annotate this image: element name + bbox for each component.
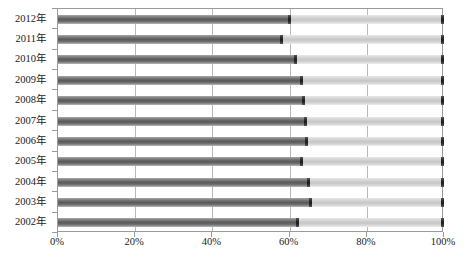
table-row [58,35,442,44]
bar-boundary-marker [288,15,291,24]
stacked-bar [58,76,442,85]
bar-segment-series-2 [311,198,444,207]
bar-segment-series-2 [303,96,444,105]
y-axis-tick-label: 2003年 [15,196,46,207]
y-axis-tick [52,232,57,233]
bar-segment-series-1 [58,15,290,24]
bar-boundary-marker [305,137,308,146]
y-axis-tick-label: 2012年 [15,13,46,24]
bar-segment-series-1 [58,55,295,64]
y-axis-tick [52,171,57,172]
y-axis-tick [52,28,57,29]
table-row [58,15,442,24]
bar-boundary-marker [307,178,310,187]
y-axis-tick-label: 2011年 [15,33,46,44]
y-axis-label-group: 2012年2011年2010年2009年2008年2007年2006年2005年… [0,8,52,232]
bar-segment-series-1 [58,218,297,227]
bar-end-marker [441,35,444,44]
bar-end-marker [441,157,444,166]
y-axis-tick-label: 2004年 [15,176,46,187]
y-axis-tick-label: 2008年 [15,94,46,105]
bar-end-marker [441,218,444,227]
y-axis-tick [52,151,57,152]
bar-boundary-marker [304,117,307,126]
stacked-bar [58,117,442,126]
bar-segment-series-1 [58,157,301,166]
y-axis-tick-label: 2002年 [15,216,46,227]
table-row [58,76,442,85]
y-axis-tick-label: 2005年 [15,155,46,166]
table-row [58,96,442,105]
stacked-bar [58,137,442,146]
stacked-bar [58,157,442,166]
bar-segment-series-1 [58,117,305,126]
stacked-bar [58,55,442,64]
stacked-bar-chart: 2012年2011年2010年2009年2008年2007年2006年2005年… [0,0,474,267]
table-row [58,157,442,166]
table-row [58,117,442,126]
bar-boundary-marker [309,198,312,207]
bar-end-marker [441,15,444,24]
bar-segment-series-2 [301,157,444,166]
stacked-bar [58,35,442,44]
bar-end-marker [441,137,444,146]
x-axis-tick-label: 60% [279,236,298,247]
bar-segment-series-1 [58,35,282,44]
bar-segment-series-1 [58,178,309,187]
table-row [58,198,442,207]
y-axis-tick-label: 2010年 [15,53,46,64]
y-axis-tick [52,191,57,192]
stacked-bar [58,218,442,227]
y-axis-tick [52,8,57,9]
x-axis-tick-label: 0% [50,236,64,247]
bar-boundary-marker [300,157,303,166]
bar-end-marker [441,117,444,126]
y-axis-tick [52,49,57,50]
table-row [58,137,442,146]
bar-segment-series-2 [290,15,444,24]
bar-segment-series-2 [295,55,444,64]
stacked-bar [58,96,442,105]
bar-segment-series-2 [305,117,444,126]
bar-boundary-marker [296,218,299,227]
y-axis-tick-label: 2006年 [15,135,46,146]
stacked-bar [58,178,442,187]
bar-segment-series-2 [282,35,444,44]
bar-segment-series-1 [58,137,307,146]
bar-boundary-marker [300,76,303,85]
bar-boundary-marker [302,96,305,105]
x-axis-label-group: 0%20%40%60%80%100% [0,236,474,252]
bar-end-marker [441,76,444,85]
y-axis-tick [52,89,57,90]
bar-boundary-marker [294,55,297,64]
x-axis-tick-label: 80% [356,236,375,247]
x-axis-tick-label: 40% [202,236,221,247]
bar-segment-series-2 [307,137,444,146]
bar-segment-series-1 [58,198,311,207]
stacked-bar [58,15,442,24]
bar-segment-series-2 [301,76,444,85]
bar-end-marker [441,96,444,105]
bar-segment-series-2 [297,218,444,227]
y-axis-tick [52,212,57,213]
bar-boundary-marker [280,35,283,44]
plot-area [57,8,443,232]
y-axis-tick-label: 2007年 [15,115,46,126]
y-axis-tick [52,130,57,131]
x-axis-tick-label: 20% [125,236,144,247]
bar-end-marker [441,55,444,64]
stacked-bar [58,198,442,207]
bar-row-group [58,9,442,231]
y-axis-tick-label: 2009年 [15,74,46,85]
table-row [58,55,442,64]
bar-end-marker [441,198,444,207]
bar-segment-series-1 [58,96,303,105]
y-axis-tick [52,110,57,111]
x-axis-tick-label: 100% [431,236,456,247]
bar-segment-series-2 [309,178,444,187]
table-row [58,218,442,227]
bar-segment-series-1 [58,76,301,85]
bar-end-marker [441,178,444,187]
y-axis-tick [52,69,57,70]
table-row [58,178,442,187]
